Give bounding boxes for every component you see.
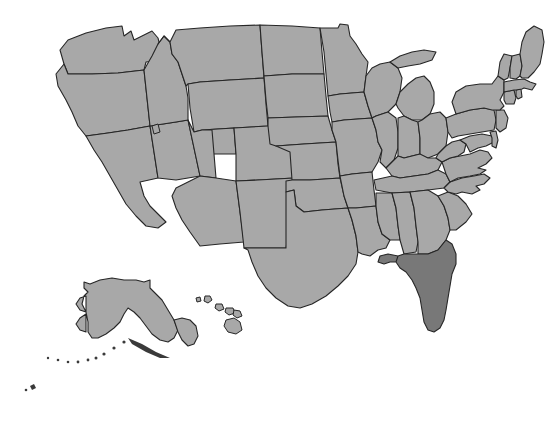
state-indiana[interactable] [398, 116, 420, 158]
us-state-map-figure [0, 0, 551, 429]
state-nebraska[interactable] [268, 116, 336, 146]
state-south-dakota[interactable] [264, 74, 328, 118]
state-rhode-island[interactable] [516, 89, 522, 99]
us-map-svg [0, 0, 551, 429]
great-salt-lake-notch [152, 124, 160, 134]
state-wyoming[interactable] [188, 78, 268, 132]
state-north-dakota[interactable] [260, 25, 324, 76]
